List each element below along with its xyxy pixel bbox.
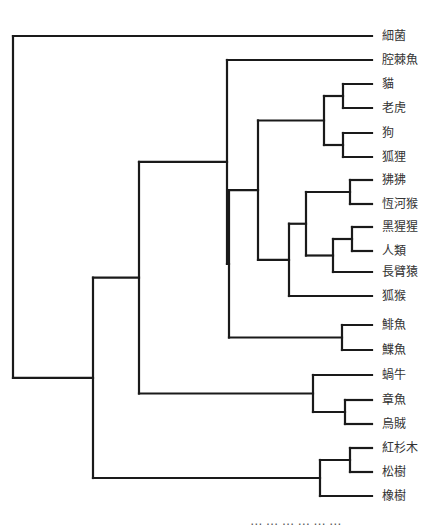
leaf-label-human: 人類 xyxy=(382,244,406,258)
leaf-label-baboon: 狒狒 xyxy=(382,173,406,187)
leaf-label-chimp: 黑猩猩 xyxy=(382,219,418,234)
leaf-label-oak: 橡樹 xyxy=(382,489,406,503)
leaf-label-fox: 狐狸 xyxy=(382,150,406,164)
leaf-label-dog: 狗 xyxy=(382,126,394,140)
leaf-label-squid: 烏賊 xyxy=(382,416,406,431)
leaf-label-bacteria: 細菌 xyxy=(382,29,406,43)
leaf-label-cat: 貓 xyxy=(382,77,394,91)
tree-branches xyxy=(13,36,372,496)
leaf-label-tiger: 老虎 xyxy=(382,101,406,115)
leaf-label-herring: 鯡魚 xyxy=(382,318,406,332)
leaf-labels: 細菌腔棘魚貓老虎狗狐狸狒狒恆河猴黑猩猩人類長臂猿狐猴鯡魚鰈魚蝸牛章魚烏賊紅杉木松… xyxy=(382,29,418,503)
leaf-label-rhesus: 恆河猴 xyxy=(382,197,418,211)
leaf-label-snail: 蝸牛 xyxy=(382,367,406,382)
leaf-label-redwood: 紅杉木 xyxy=(382,441,418,455)
phylogenetic-tree: 細菌腔棘魚貓老虎狗狐狸狒狒恆河猴黑猩猩人類長臂猿狐猴鯡魚鰈魚蝸牛章魚烏賊紅杉木松… xyxy=(0,0,446,527)
leaf-label-lemur: 狐猴 xyxy=(382,289,406,303)
leaf-label-gibbon: 長臂猿 xyxy=(382,264,418,279)
leaf-label-flounder: 鰈魚 xyxy=(382,343,406,357)
leaf-label-pine: 松樹 xyxy=(382,465,406,479)
clipped-caption: ⋯ ⋯ ⋯ ⋯ ⋯ ⋯ xyxy=(250,517,341,527)
leaf-label-coelacanth: 腔棘魚 xyxy=(382,52,418,67)
leaf-label-octopus: 章魚 xyxy=(382,392,406,407)
